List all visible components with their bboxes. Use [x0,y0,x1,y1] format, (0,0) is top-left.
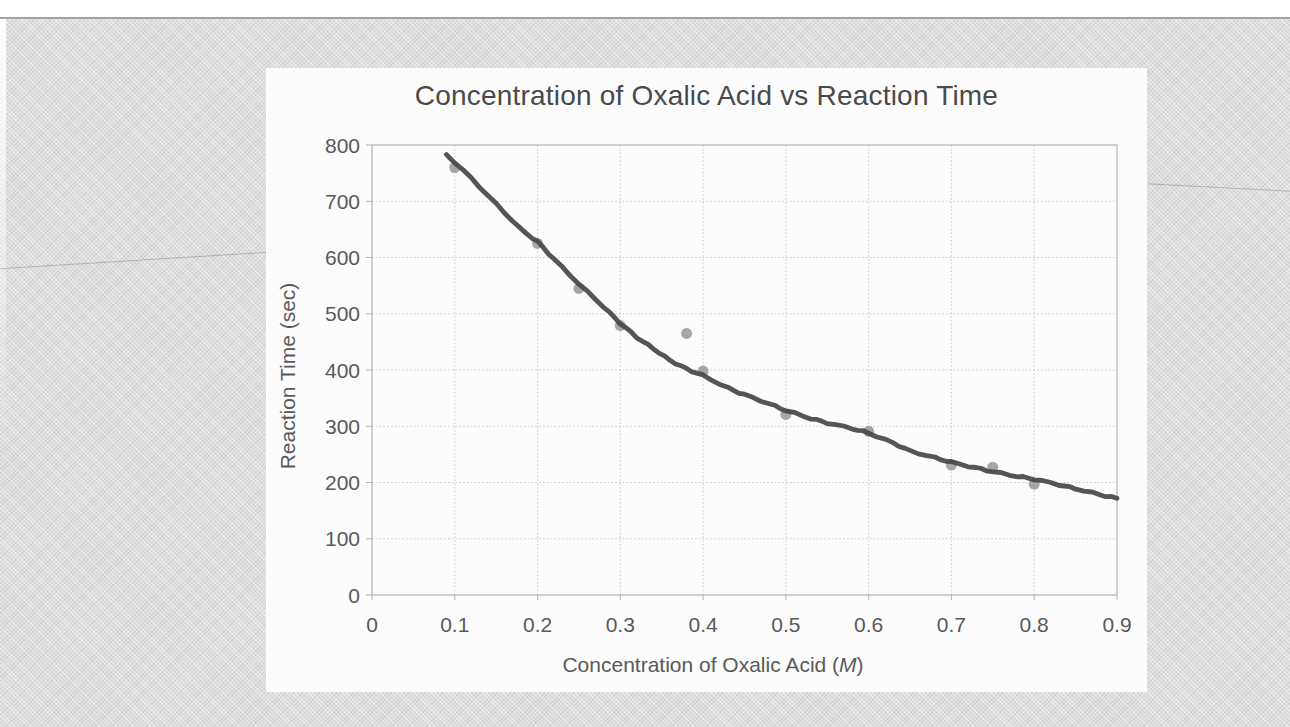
trend-line-path [447,155,1118,499]
paper-edge-highlight [0,19,6,439]
y-tick-label: 600 [325,246,360,269]
paper-wrinkle-right [1148,183,1290,191]
data-point [681,328,692,339]
y-tick-label: 800 [325,134,360,157]
x-tick-label: 0.5 [771,613,800,636]
x-tick-label: 0.4 [688,613,718,636]
page-top-margin [0,0,1290,17]
paper-wrinkle-left [0,252,268,269]
chart-panel: Concentration of Oxalic Acid vs Reaction… [266,68,1147,692]
y-tick-label: 0 [348,584,360,607]
y-axis-title: Reaction Time (sec) [276,283,299,470]
x-tick-label: 0 [366,613,378,636]
y-tick-label: 500 [325,302,360,325]
y-tick-label: 300 [325,415,360,438]
y-tick-label: 100 [325,527,360,550]
x-tick-label: 0.7 [937,613,966,636]
x-tick-label: 0.8 [1020,613,1049,636]
y-tick-label: 700 [325,190,360,213]
x-tick-label: 0.1 [440,613,469,636]
x-tick-label: 0.2 [523,613,552,636]
x-tick-label: 0.6 [854,613,883,636]
y-tick-label: 200 [325,471,360,494]
scanned-page: Concentration of Oxalic Acid vs Reaction… [0,0,1290,727]
x-axis-title: Concentration of Oxalic Acid (M) [562,653,863,676]
y-tick-label: 400 [325,359,360,382]
chart-plot-area: 00.10.20.30.40.50.60.70.80.9010020030040… [266,68,1147,692]
paper-background: Concentration of Oxalic Acid vs Reaction… [0,17,1290,727]
x-tick-label: 0.3 [606,613,635,636]
x-tick-label: 0.9 [1102,613,1131,636]
